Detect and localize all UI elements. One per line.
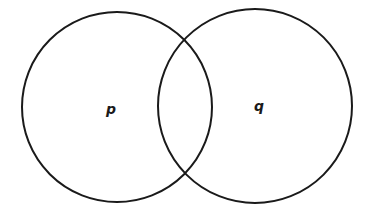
- venn-diagram: p q: [0, 0, 370, 214]
- set-q-label: q: [254, 98, 264, 114]
- set-p-label: p: [105, 101, 116, 117]
